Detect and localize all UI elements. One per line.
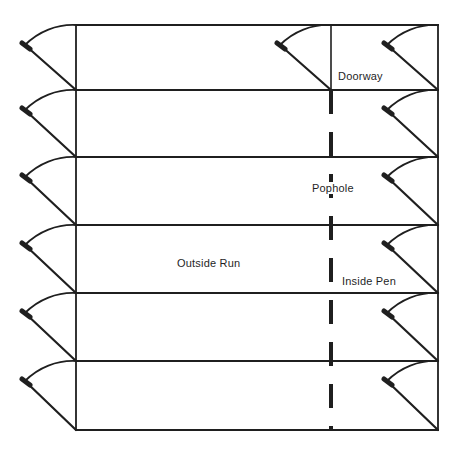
door-leaf bbox=[387, 45, 438, 90]
door-swing-arc bbox=[25, 225, 76, 245]
door-leaf bbox=[25, 110, 76, 157]
left-door-row-5 bbox=[22, 293, 76, 361]
inside-pen-label: Inside Pen bbox=[342, 275, 396, 287]
pophole-label: Pophole bbox=[309, 182, 357, 194]
door-tip bbox=[22, 108, 30, 114]
door-swing-arc bbox=[387, 361, 438, 381]
door-swing-arc bbox=[280, 25, 331, 45]
door-leaf bbox=[387, 381, 438, 430]
door-leaf bbox=[25, 313, 76, 361]
left-door-row-4 bbox=[22, 225, 76, 293]
door-swing-arc bbox=[387, 293, 438, 313]
door-tip bbox=[384, 379, 392, 385]
right-door-row-2 bbox=[384, 90, 438, 157]
door-tip bbox=[384, 311, 392, 317]
left-door-row-3 bbox=[22, 157, 76, 225]
right-door-row-1 bbox=[384, 25, 438, 90]
door-leaf bbox=[25, 245, 76, 293]
pen-grid bbox=[76, 25, 438, 430]
door-tip bbox=[384, 43, 392, 49]
door-swing-arc bbox=[387, 25, 438, 45]
door-tip bbox=[384, 243, 392, 249]
door-leaf bbox=[280, 45, 331, 90]
outside-run-label: Outside Run bbox=[177, 257, 240, 269]
door-tip bbox=[22, 243, 30, 249]
door-tip bbox=[22, 43, 30, 49]
door-tip bbox=[22, 175, 30, 181]
right-door-row-3 bbox=[384, 157, 438, 225]
door-leaf bbox=[387, 110, 438, 157]
door-swing-arc bbox=[25, 293, 76, 313]
door-leaf bbox=[25, 177, 76, 225]
door-tip bbox=[384, 175, 392, 181]
door-tip bbox=[22, 379, 30, 385]
doorway-label: Doorway bbox=[338, 70, 383, 82]
door-tip bbox=[384, 108, 392, 114]
doorway-door bbox=[277, 25, 331, 90]
door-swing-arc bbox=[25, 157, 76, 177]
door-swing-arc bbox=[25, 90, 76, 110]
door-swing-arc bbox=[25, 361, 76, 381]
door-leaf bbox=[25, 381, 76, 430]
pen-layout-diagram bbox=[0, 0, 462, 451]
left-door-row-6 bbox=[22, 361, 76, 430]
left-door-row-2 bbox=[22, 90, 76, 157]
left-door-row-1 bbox=[22, 25, 76, 90]
door-tip bbox=[22, 311, 30, 317]
door-leaf bbox=[387, 313, 438, 361]
door-leaf bbox=[25, 45, 76, 90]
door-leaf bbox=[387, 177, 438, 225]
door-swing-arc bbox=[387, 225, 438, 245]
door-swing-arc bbox=[25, 25, 76, 45]
right-door-row-5 bbox=[384, 293, 438, 361]
right-door-row-6 bbox=[384, 361, 438, 430]
door-tip bbox=[277, 43, 285, 49]
door-swing-arc bbox=[387, 90, 438, 110]
pen-layout-figure: Doorway Pophole Outside Run Inside Pen bbox=[0, 0, 462, 451]
door-swing-arc bbox=[387, 157, 438, 177]
